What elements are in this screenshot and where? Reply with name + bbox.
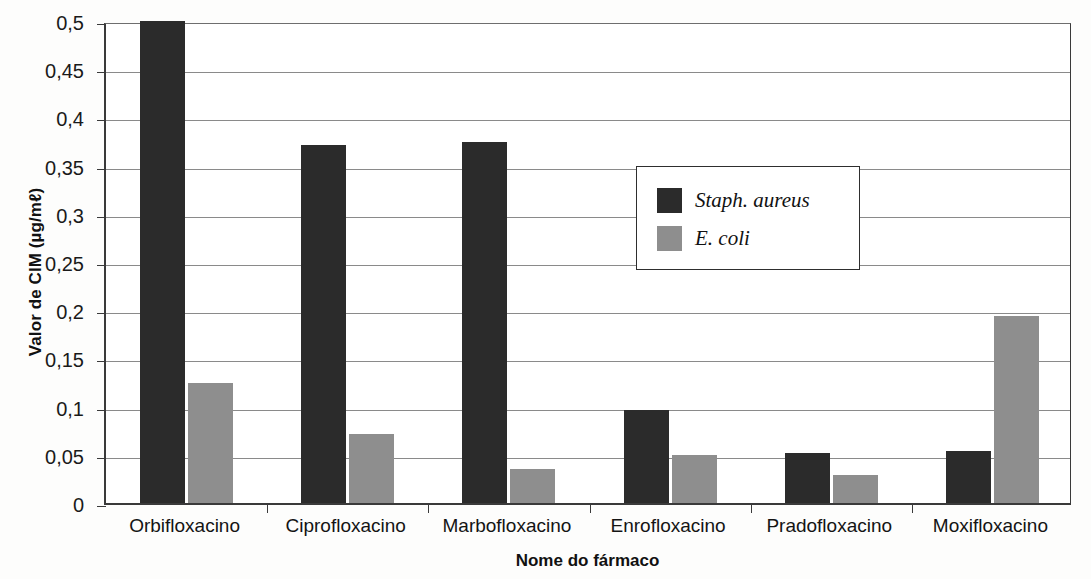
legend-label-staph-aureus: Staph. aureus bbox=[695, 188, 810, 213]
x-axis-category-labels: OrbifloxacinoCiprofloxacinoMarbofloxacin… bbox=[104, 515, 1071, 549]
gridline bbox=[106, 313, 1070, 314]
y-axis-tick bbox=[97, 120, 106, 121]
gridline bbox=[106, 72, 1070, 73]
bar-staph-aureus-4 bbox=[785, 453, 830, 503]
gridline bbox=[106, 458, 1070, 459]
x-axis-label-3: Enrofloxacino bbox=[588, 515, 749, 537]
x-axis-label-1: Ciprofloxacino bbox=[265, 515, 426, 537]
gridline bbox=[106, 265, 1070, 266]
x-axis-tick bbox=[267, 503, 268, 513]
y-axis-tick bbox=[97, 361, 106, 362]
y-axis-tick bbox=[97, 313, 106, 314]
bar-staph-aureus-1 bbox=[301, 145, 346, 503]
y-axis-tick bbox=[97, 169, 106, 170]
chart-page: Valor de CIM (µg/mℓ) 00,050,10,150,20,25… bbox=[0, 0, 1091, 579]
x-axis-label-4: Pradofloxacino bbox=[749, 515, 910, 537]
bar-e-coli-3 bbox=[672, 455, 717, 503]
x-axis-tick bbox=[428, 503, 429, 513]
legend-swatch-staph-aureus bbox=[657, 188, 682, 213]
legend-swatch-e-coli bbox=[657, 226, 682, 251]
y-axis-tick bbox=[97, 217, 106, 218]
bar-staph-aureus-0 bbox=[140, 21, 185, 503]
legend-label-e-coli: E. coli bbox=[695, 226, 750, 251]
gridline bbox=[106, 169, 1070, 170]
bar-e-coli-1 bbox=[349, 434, 394, 503]
y-axis-tick bbox=[97, 72, 106, 73]
y-axis-tick-label: 0,45 bbox=[45, 60, 84, 83]
y-axis-tick-labels: 00,050,10,150,20,250,30,350,40,450,5 bbox=[0, 0, 96, 579]
x-axis-label-0: Orbifloxacino bbox=[104, 515, 265, 537]
y-axis-tick-label: 0,4 bbox=[56, 108, 84, 131]
y-axis-tick-label: 0 bbox=[73, 494, 84, 517]
bar-e-coli-5 bbox=[994, 316, 1039, 503]
x-axis-title: Nome do fármaco bbox=[104, 551, 1071, 571]
bar-e-coli-2 bbox=[510, 469, 555, 503]
legend-item-0[interactable]: Staph. aureus bbox=[657, 181, 859, 219]
y-axis-tick-label: 0,2 bbox=[56, 301, 84, 324]
plot-area bbox=[104, 23, 1071, 505]
bar-staph-aureus-3 bbox=[624, 410, 669, 504]
bar-staph-aureus-2 bbox=[462, 142, 507, 503]
y-axis-tick bbox=[97, 265, 106, 266]
x-axis-tick bbox=[751, 503, 752, 513]
y-axis-tick-label: 0,5 bbox=[56, 12, 84, 35]
x-axis-tick bbox=[912, 503, 913, 513]
gridline bbox=[106, 120, 1070, 121]
bar-staph-aureus-5 bbox=[946, 451, 991, 503]
x-axis-tick bbox=[590, 503, 591, 513]
y-axis-tick bbox=[97, 506, 106, 507]
y-axis-tick-label: 0,05 bbox=[45, 445, 84, 468]
gridline bbox=[106, 361, 1070, 362]
chart-legend: Staph. aureus E. coli bbox=[636, 166, 860, 270]
x-axis-label-2: Marbofloxacino bbox=[426, 515, 587, 537]
y-axis-tick-label: 0,1 bbox=[56, 397, 84, 420]
y-axis-tick-label: 0,35 bbox=[45, 156, 84, 179]
y-axis-tick bbox=[97, 24, 106, 25]
gridline bbox=[106, 217, 1070, 218]
bar-e-coli-4 bbox=[833, 475, 878, 503]
y-axis-tick-label: 0,15 bbox=[45, 349, 84, 372]
y-axis-tick-label: 0,25 bbox=[45, 253, 84, 276]
legend-item-1[interactable]: E. coli bbox=[657, 219, 859, 257]
y-axis-tick-label: 0,3 bbox=[56, 204, 84, 227]
y-axis-tick bbox=[97, 458, 106, 459]
bar-e-coli-0 bbox=[188, 383, 233, 504]
x-axis-label-5: Moxifloxacino bbox=[910, 515, 1071, 537]
gridline bbox=[106, 410, 1070, 411]
y-axis-tick bbox=[97, 410, 106, 411]
